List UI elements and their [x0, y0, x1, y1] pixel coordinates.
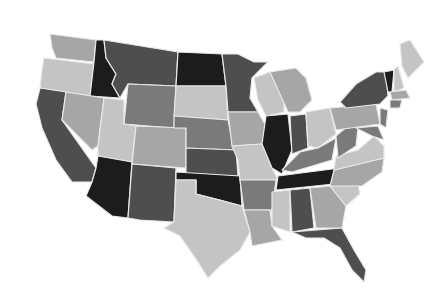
- state-wy: [124, 84, 176, 128]
- state-fl: [292, 228, 366, 282]
- state-ks: [186, 148, 238, 176]
- state-ia: [228, 112, 266, 146]
- state-nj: [380, 108, 388, 128]
- state-ar: [240, 180, 276, 210]
- state-wa: [50, 34, 96, 62]
- state-ct: [390, 100, 402, 108]
- state-md: [356, 126, 384, 140]
- state-in: [290, 114, 308, 154]
- state-ms: [272, 190, 290, 232]
- state-me: [400, 40, 424, 78]
- state-nh: [394, 66, 404, 92]
- state-co: [132, 126, 186, 168]
- state-nd: [176, 52, 226, 86]
- state-ma: [390, 90, 410, 100]
- us-choropleth-map: [0, 0, 441, 298]
- state-nm: [128, 164, 176, 222]
- state-layer: [36, 34, 424, 282]
- state-sd: [174, 86, 228, 120]
- state-ny: [340, 72, 388, 108]
